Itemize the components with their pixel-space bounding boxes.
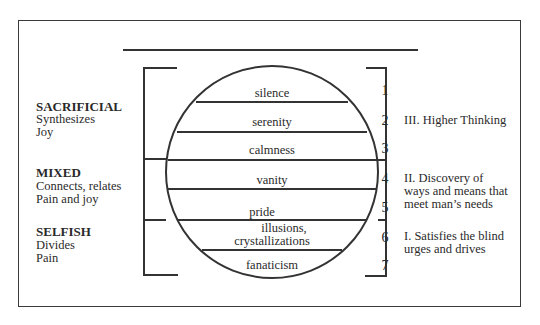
category-line: Connects, relates bbox=[36, 180, 121, 193]
layer-number-1: 1 bbox=[382, 84, 389, 98]
layer-label-vanity: vanity bbox=[256, 174, 287, 187]
layer-number-7: 7 bbox=[382, 259, 389, 273]
layer-label-crystallizations: crystallizations bbox=[234, 235, 310, 248]
layer-number-3: 3 bbox=[382, 142, 389, 156]
stage-line: III. Higher Thinking bbox=[404, 114, 506, 127]
layer-label-serenity: serenity bbox=[252, 116, 292, 129]
layer-number-2: 2 bbox=[382, 114, 389, 128]
layer-number-5: 5 bbox=[382, 201, 389, 215]
layer-label-pride: pride bbox=[249, 206, 275, 219]
stage-line: meet man’s needs bbox=[404, 198, 493, 211]
diagram-lines bbox=[0, 0, 540, 325]
layer-label-calmness: calmness bbox=[249, 144, 295, 157]
category-line: Synthesizes bbox=[36, 113, 95, 126]
layer-number-4: 4 bbox=[382, 172, 389, 186]
category-line: Divides bbox=[36, 239, 75, 252]
layer-label-illusions: illusions, bbox=[261, 222, 307, 235]
layer-label-fanaticism: fanaticism bbox=[246, 259, 298, 272]
layer-number-6: 6 bbox=[382, 231, 389, 245]
category-line: Pain bbox=[36, 252, 58, 265]
category-title: SELFISH bbox=[36, 225, 91, 238]
stage-line: urges and drives bbox=[404, 243, 486, 256]
left-bracket bbox=[144, 68, 178, 275]
category-line: Pain and joy bbox=[36, 193, 99, 206]
layer-label-silence: silence bbox=[255, 87, 290, 100]
category-title: MIXED bbox=[36, 166, 81, 179]
category-line: Joy bbox=[36, 126, 53, 139]
